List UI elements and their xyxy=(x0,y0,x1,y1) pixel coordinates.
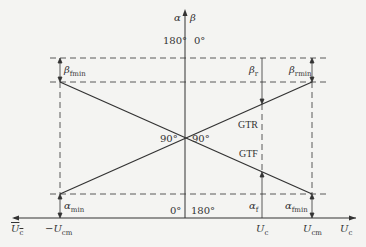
uc-right-end-label: Uc xyxy=(340,224,352,237)
gtf-label: GTF xyxy=(239,149,258,159)
gtr-label: GTR xyxy=(238,120,258,130)
uc-left-end-label: Uc xyxy=(11,224,23,237)
beta-rmin-label: βrmin xyxy=(289,65,312,78)
neg-ucm-label: −Ucm xyxy=(45,224,72,237)
center-angle-left: 90° xyxy=(160,134,178,144)
alpha-axis-label: α xyxy=(174,13,181,23)
beta-180-label: 180° xyxy=(191,206,215,216)
beta-r-label: βr xyxy=(249,65,258,78)
alpha-0-label: 0° xyxy=(170,206,181,216)
ucm-label: Ucm xyxy=(303,224,322,237)
alpha-180-label: 180° xyxy=(163,36,187,46)
beta-axis-label: β xyxy=(190,13,196,23)
center-angle-right: 90° xyxy=(192,134,210,144)
phase-control-diagram: α β 180° 0° 0° 180° 90° 90° GTR GTF βfmi… xyxy=(0,0,366,247)
beta-0-label: 0° xyxy=(194,36,205,46)
alpha-f-label: αf xyxy=(249,201,258,214)
uc-label: Uc xyxy=(256,224,268,237)
beta-fmin-label: βfmin xyxy=(64,65,86,78)
alpha-fmin-label: αfmin xyxy=(285,201,308,214)
alpha-min-label: αmin xyxy=(64,201,84,214)
